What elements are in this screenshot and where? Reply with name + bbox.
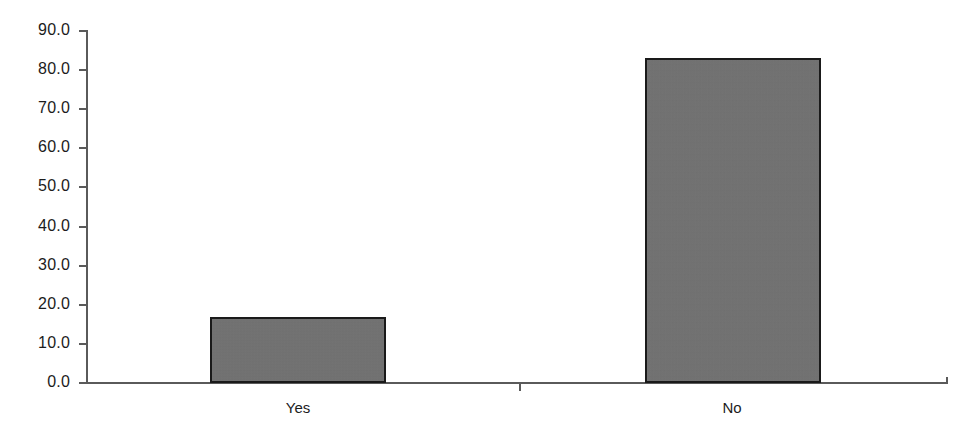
y-axis-tick-mark (79, 108, 87, 110)
y-axis-tick-label: 60.0 (0, 138, 70, 156)
y-axis-tick-label: 10.0 (0, 334, 70, 352)
y-axis-tick-mark (79, 343, 87, 345)
x-axis-end-cap (946, 377, 948, 384)
bar-chart: 0.010.020.030.040.050.060.070.080.090.0 … (0, 0, 973, 439)
y-axis-tick-label: 20.0 (0, 295, 70, 313)
y-axis-tick-mark (79, 69, 87, 71)
y-axis-tick-mark (79, 226, 87, 228)
bar-no (645, 58, 821, 383)
x-axis-category-divider-tick (519, 383, 521, 391)
y-axis-tick-label: 80.0 (0, 60, 70, 78)
y-axis-tick-label: 90.0 (0, 21, 70, 39)
y-axis-tick-label: 40.0 (0, 217, 70, 235)
y-axis-tick-mark (79, 186, 87, 188)
y-axis-tick-label: 0.0 (0, 373, 70, 391)
y-axis-tick-mark (79, 304, 87, 306)
y-axis-tick-label: 50.0 (0, 177, 70, 195)
y-axis-tick-label: 30.0 (0, 256, 70, 274)
category-label-yes: Yes (238, 399, 358, 416)
y-axis-tick-mark (79, 147, 87, 149)
y-axis-tick-mark (79, 30, 87, 32)
bar-yes (210, 317, 386, 383)
y-axis-tick-label: 70.0 (0, 99, 70, 117)
category-label-no: No (672, 399, 792, 416)
y-axis-line (86, 30, 88, 384)
y-axis-tick-mark (79, 265, 87, 267)
